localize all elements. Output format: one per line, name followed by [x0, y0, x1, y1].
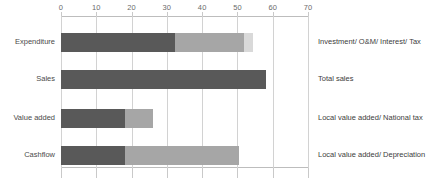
- bar-row: [61, 70, 308, 89]
- bar-segment: [244, 33, 253, 52]
- x-tick-label: 40: [190, 3, 214, 12]
- category-label-cashflow: Cashflow: [24, 150, 55, 159]
- x-tick-mark: [237, 168, 238, 178]
- x-tick-mark: [132, 168, 133, 178]
- x-tick-mark-top: [61, 12, 62, 16]
- x-tick-mark: [308, 168, 309, 178]
- x-tick-label: 30: [155, 3, 179, 12]
- category-axis-labels: ExpenditureSalesValue addedCashflow: [0, 0, 55, 184]
- x-tick-mark-top: [167, 12, 168, 16]
- category-label-expenditure: Expenditure: [15, 37, 55, 46]
- bar-segment: [175, 33, 245, 52]
- annotation-labels: Investment/ O&M/ Interest/ TaxTotal sale…: [318, 0, 440, 184]
- bar-segment: [125, 146, 240, 165]
- bar-segment: [61, 33, 175, 52]
- x-tick-mark: [202, 168, 203, 178]
- x-tick-label: 50: [225, 3, 249, 12]
- bar-segment: [61, 146, 125, 165]
- x-tick-label: 10: [84, 3, 108, 12]
- gridline: [308, 16, 309, 168]
- plot-area: [61, 16, 308, 168]
- annotation-label: Local value added/ National tax: [318, 113, 423, 122]
- bar-segment: [61, 70, 266, 89]
- annotation-label: Total sales: [318, 74, 353, 83]
- x-tick-label: 60: [261, 3, 285, 12]
- bar-segment: [125, 109, 153, 128]
- annotation-label: Investment/ O&M/ Interest/ Tax: [318, 37, 421, 46]
- x-tick-label: 70: [296, 3, 320, 12]
- bar-segment: [61, 109, 125, 128]
- category-label-sales: Sales: [36, 74, 55, 83]
- x-tick-mark-top: [237, 12, 238, 16]
- x-tick-mark-top: [202, 12, 203, 16]
- x-tick-mark-top: [308, 12, 309, 16]
- axis-line-bottom: [61, 167, 308, 168]
- x-tick-label: 20: [120, 3, 144, 12]
- bar-row: [61, 109, 308, 128]
- category-label-value-added: Value added: [13, 113, 55, 122]
- x-tick-mark-top: [132, 12, 133, 16]
- bar-row: [61, 146, 308, 165]
- x-tick-mark-top: [96, 12, 97, 16]
- x-tick-mark: [96, 168, 97, 178]
- axis-line-top: [61, 16, 308, 17]
- x-tick-mark: [61, 168, 62, 178]
- bar-row: [61, 33, 308, 52]
- bar-chart: 010203040506070 ExpenditureSalesValue ad…: [0, 0, 440, 184]
- x-tick-mark: [167, 168, 168, 178]
- x-tick-mark: [273, 168, 274, 178]
- annotation-label: Local value added/ Depreciation: [318, 150, 425, 159]
- x-tick-mark-top: [273, 12, 274, 16]
